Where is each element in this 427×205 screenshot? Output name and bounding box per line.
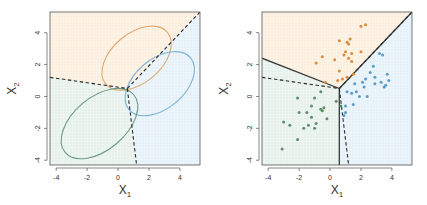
y-tick-label: -2 [34,125,41,131]
blue-point [363,85,366,88]
figure: -4-2024-4-2024X1X2 -4-2024-4-2024X1X2 [0,0,427,205]
orange-point [324,81,327,84]
x-tick-label: 4 [178,174,182,181]
y-tick-label: 0 [34,94,41,98]
x-tick-label: -4 [53,174,59,181]
blue-point [346,90,349,93]
green-point [335,100,338,103]
y-tick-label: 2 [34,63,41,67]
blue-point [369,71,372,74]
x-tick-label: -2 [296,174,302,181]
y-axis-label: X2 [217,82,233,95]
blue-point [378,52,381,55]
orange-point [315,62,318,65]
orange-point [344,50,347,53]
blue-point [387,79,390,82]
orange-point [336,79,339,82]
green-point [296,97,299,100]
green-point [307,124,310,127]
x-axis-label: X1 [331,183,344,199]
green-point [321,109,324,112]
blue-point [342,114,345,117]
orange-point [333,58,336,61]
orange-point [338,39,341,42]
blue-point [383,85,386,88]
green-point [310,116,313,119]
y-tick-label: 4 [246,31,253,35]
x-tick-label: 4 [390,174,394,181]
blue-point [380,81,383,84]
orange-point [347,57,350,60]
green-point [325,117,328,120]
blue-point [355,90,358,93]
y-tick-label: -4 [34,157,41,163]
green-point [281,148,284,151]
x-tick-label: 2 [359,174,363,181]
x-tick-label: -2 [84,174,90,181]
orange-point [350,60,353,63]
blue-point [373,76,376,79]
orange-point [321,55,324,58]
orange-point [352,73,355,76]
orange-point [347,42,350,45]
orange-point [341,77,344,80]
blue-point [361,81,364,84]
green-point [282,120,285,123]
blue-point [366,95,369,98]
x-axis-label: X1 [119,183,132,199]
right-panel-plot: -4-2024-4-2024X1X2 [217,12,412,199]
blue-point [358,95,361,98]
blue-point [386,73,389,76]
orange-point [346,76,349,79]
green-point [310,105,313,108]
green-point [319,90,322,93]
orange-point [359,50,362,53]
green-point [313,127,316,130]
blue-point [352,103,355,106]
green-point [298,111,301,114]
blue-point [344,105,347,108]
orange-point [338,69,341,72]
green-point [339,105,342,108]
orange-point [350,52,353,55]
green-point [302,127,305,130]
x-tick-label: 0 [116,174,120,181]
green-point [322,106,325,109]
x-tick-label: -4 [265,174,271,181]
x-tick-label: 2 [147,174,151,181]
blue-point [372,65,375,68]
y-tick-label: 4 [34,31,41,35]
blue-point [381,54,384,57]
blue-point [350,92,353,95]
green-point [288,124,291,127]
x-tick-label: 0 [328,174,332,181]
orange-point [349,38,352,41]
y-tick-label: -4 [246,157,253,163]
orange-point [342,54,345,57]
y-tick-label: -2 [246,125,253,131]
green-point [315,122,318,125]
blue-point [373,82,376,85]
green-point [313,97,316,100]
blue-point [353,82,356,85]
y-axis-label: X2 [5,82,21,95]
orange-point [359,25,362,28]
orange-point [364,23,367,26]
blue-point [364,77,367,80]
left-panel-plot: -4-2024-4-2024X1X2 [5,12,206,199]
blue-point [344,111,347,114]
y-tick-label: 0 [246,94,253,98]
green-point [305,111,308,114]
y-tick-label: 2 [246,63,253,67]
green-point [296,138,299,141]
